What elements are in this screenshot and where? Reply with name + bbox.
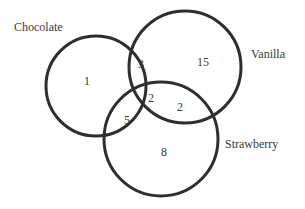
vanilla-label: Vanilla [251, 47, 286, 61]
strawberry-label: Strawberry [225, 137, 278, 151]
region-vanilla-only: 15 [197, 55, 209, 69]
chocolate-label: Chocolate [14, 20, 63, 34]
vanilla-circle [129, 11, 241, 123]
venn-diagram: Chocolate Vanilla Strawberry 1 3 15 2 2 … [0, 0, 305, 209]
region-strawberry-only: 8 [161, 145, 167, 159]
strawberry-circle [104, 82, 218, 196]
venn-canvas: Chocolate Vanilla Strawberry 1 3 15 2 2 … [0, 0, 305, 209]
region-vanilla-strawberry: 2 [177, 100, 183, 114]
region-chocolate-only: 1 [84, 74, 90, 88]
region-chocolate-vanilla: 3 [138, 57, 144, 71]
region-all-three: 2 [148, 91, 154, 105]
region-chocolate-strawberry: 5 [124, 113, 130, 127]
